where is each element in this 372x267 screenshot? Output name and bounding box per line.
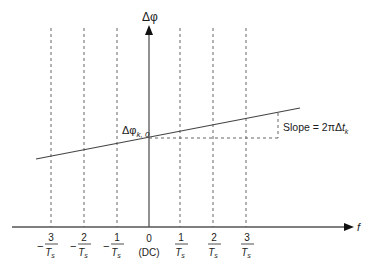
svg-text:1: 1 <box>178 232 184 243</box>
tick-label-plus-1: 1 Ts <box>175 232 188 259</box>
svg-text:−: − <box>70 240 76 252</box>
tick-label-plus-3: 3 Ts <box>241 232 254 259</box>
intercept-label: Δφk, 0 <box>122 124 150 139</box>
tick-label-minus-1: − 1 Ts <box>103 232 124 259</box>
svg-text:3: 3 <box>48 232 54 243</box>
y-axis <box>145 25 153 227</box>
tick-label-zero-dc: 0 (DC) <box>138 233 159 258</box>
svg-text:Ts: Ts <box>45 247 55 259</box>
phase-vs-frequency-diagram: f Δφ Δφk, 0 Slope = 2πΔtk − 3 Ts − 2 Ts … <box>0 0 372 267</box>
svg-text:Ts: Ts <box>208 247 218 259</box>
svg-text:3: 3 <box>244 232 250 243</box>
svg-text:Ts: Ts <box>241 247 251 259</box>
svg-text:0: 0 <box>146 233 152 244</box>
y-axis-label: Δφ <box>142 10 158 24</box>
tick-label-minus-3: − 3 Ts <box>37 232 58 259</box>
y-axis-arrow-icon <box>145 25 153 35</box>
svg-text:−: − <box>103 240 109 252</box>
x-axis-label: f <box>357 221 361 233</box>
x-axis-arrow-icon <box>344 223 354 231</box>
svg-text:1: 1 <box>114 232 120 243</box>
svg-text:2: 2 <box>81 232 87 243</box>
svg-text:−: − <box>37 240 43 252</box>
svg-text:Ts: Ts <box>175 247 185 259</box>
svg-text:(DC): (DC) <box>138 247 159 258</box>
tick-label-minus-2: − 2 Ts <box>70 232 91 259</box>
svg-text:2: 2 <box>211 232 217 243</box>
phase-line <box>36 108 300 159</box>
slope-label: Slope = 2πΔtk <box>283 121 349 135</box>
svg-text:Ts: Ts <box>78 247 88 259</box>
tick-label-plus-2: 2 Ts <box>208 232 221 259</box>
svg-text:Ts: Ts <box>111 247 121 259</box>
x-axis <box>12 223 354 231</box>
